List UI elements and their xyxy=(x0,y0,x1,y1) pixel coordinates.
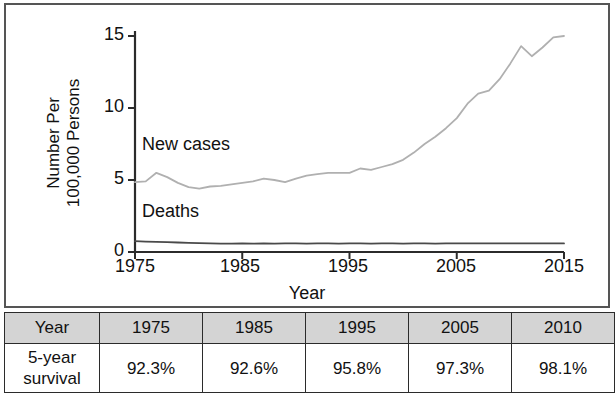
table-row-label-survival: 5-year survival xyxy=(5,344,100,393)
table-cell-survival-2010: 98.1% xyxy=(512,344,615,393)
table-cell-survival-1975: 92.3% xyxy=(100,344,203,393)
table-header-cell-2005: 2005 xyxy=(409,313,512,344)
chart-panel: Number Per 100,000 Persons 15 10 5 0 197… xyxy=(4,3,610,308)
table-header-cell-1985: 1985 xyxy=(203,313,306,344)
table-cell-survival-1985: 92.6% xyxy=(203,344,306,393)
table-cell-survival-2005: 97.3% xyxy=(409,344,512,393)
table-header-cell-1995: 1995 xyxy=(306,313,409,344)
axes-group xyxy=(128,31,564,259)
table-cell-survival-1995: 95.8% xyxy=(306,344,409,393)
table-row-label-line-1: 5-year xyxy=(5,347,99,368)
table-row: 5-year survival 92.3% 92.6% 95.8% 97.3% … xyxy=(5,344,615,393)
table-header-cell-year: Year xyxy=(5,313,100,344)
series-line-deaths xyxy=(135,241,564,243)
series-line-new-cases xyxy=(135,36,564,189)
table-header-row: Year 1975 1985 1995 2005 2010 xyxy=(5,313,615,344)
table-header-cell-1975: 1975 xyxy=(100,313,203,344)
survival-data-table: Year 1975 1985 1995 2005 2010 5-year sur… xyxy=(4,312,615,393)
plot-area xyxy=(6,5,612,310)
table-row-label-line-2: survival xyxy=(5,368,99,389)
table-header-cell-2010: 2010 xyxy=(512,313,615,344)
